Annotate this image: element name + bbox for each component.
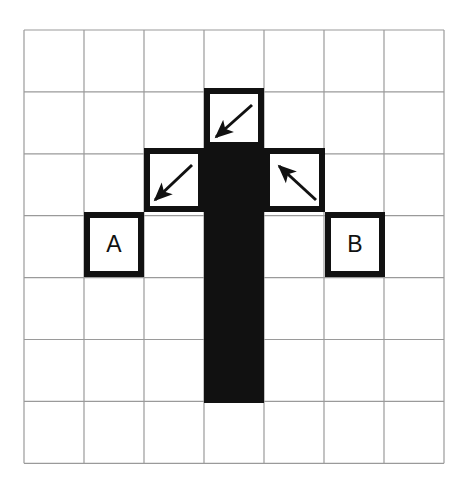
figure-canvas: AB — [0, 0, 475, 493]
top-arrow-square — [207, 91, 261, 145]
black-shape — [204, 147, 264, 403]
black-shape-vertical-stem — [204, 147, 264, 403]
square-a-label: A — [106, 231, 122, 257]
grid-figure: AB — [0, 0, 475, 493]
square-b-label: B — [347, 231, 362, 257]
